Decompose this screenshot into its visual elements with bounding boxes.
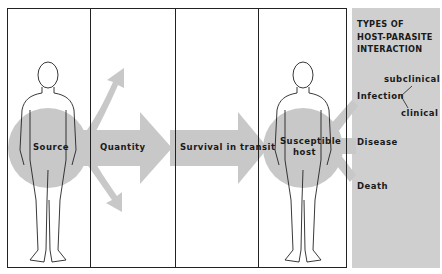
title-line-1: TYPES OF	[357, 18, 433, 31]
source-label: Source	[33, 142, 69, 152]
death-label: Death	[357, 181, 388, 191]
diagram-title: TYPES OF HOST-PARASITE INTERACTION	[357, 18, 433, 56]
clinical-label: clinical	[401, 108, 439, 118]
disease-label: Disease	[357, 137, 398, 147]
host-label-1: Susceptible	[280, 136, 341, 146]
survival-label: Survival in transit	[180, 142, 275, 152]
quantity-label: Quantity	[100, 142, 146, 152]
title-line-3: INTERACTION	[357, 43, 433, 56]
infection-label: Infection	[357, 91, 404, 101]
subclinical-label: subclinical	[384, 74, 440, 84]
host-label-2: host	[293, 147, 316, 157]
title-line-2: HOST-PARASITE	[357, 31, 433, 44]
